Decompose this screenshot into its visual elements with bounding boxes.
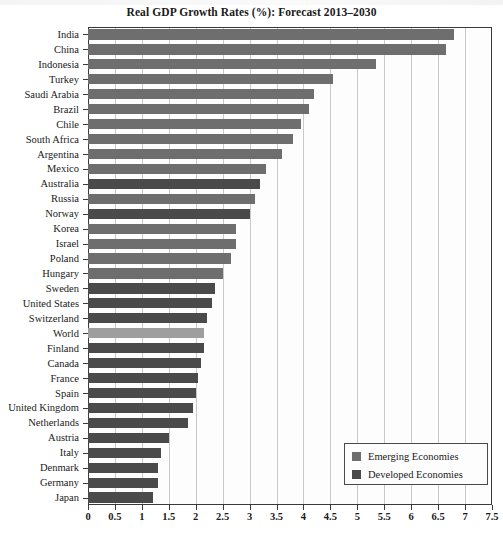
category-label: South Africa — [26, 132, 79, 147]
x-tick — [465, 505, 466, 510]
bar-row — [88, 102, 492, 117]
bar-india — [88, 29, 454, 39]
category-label: Switzerland — [29, 311, 79, 326]
bar-row — [88, 176, 492, 191]
category-label: Russia — [51, 191, 79, 206]
bar-row — [88, 341, 492, 356]
category-label: Mexico — [47, 161, 79, 176]
legend-label: Developed Economies — [368, 469, 463, 480]
bar-israel — [88, 239, 236, 249]
bar-row — [88, 326, 492, 341]
bar-germany — [88, 478, 158, 488]
category-label: Netherlands — [28, 415, 79, 430]
bar-row — [88, 57, 492, 72]
bar-argentina — [88, 149, 282, 159]
x-tick — [384, 505, 385, 510]
bar-china — [88, 44, 446, 54]
legend-label: Emerging Economies — [368, 451, 459, 462]
category-label: World — [53, 326, 79, 341]
bars-layer — [88, 27, 492, 505]
bar-brazil — [88, 104, 309, 114]
legend-swatch-icon — [352, 470, 361, 479]
value-axis: 00.511.522.533.544.555.566.577.5 — [88, 505, 492, 535]
x-tick — [411, 505, 412, 510]
bar-mexico — [88, 164, 266, 174]
x-tick-label: 7 — [462, 511, 467, 522]
x-tick-label: 1 — [139, 511, 144, 522]
bar-finland — [88, 343, 204, 353]
category-label: Brazil — [53, 102, 79, 117]
bar-norway — [88, 209, 250, 219]
bar-world — [88, 328, 204, 338]
bar-chile — [88, 119, 301, 129]
category-label: Turkey — [49, 72, 79, 87]
legend-item: Emerging Economies — [352, 448, 459, 464]
bar-australia — [88, 179, 260, 189]
bar-row — [88, 42, 492, 57]
x-tick — [492, 505, 493, 510]
category-label: China — [54, 42, 79, 57]
category-label: Canada — [48, 356, 80, 371]
bar-row — [88, 206, 492, 221]
bar-poland — [88, 253, 231, 263]
chart-container: Real GDP Growth Rates (%): Forecast 2013… — [0, 0, 503, 552]
category-label: Japan — [55, 490, 79, 505]
x-tick-label: 3 — [247, 511, 252, 522]
x-tick-label: 4.5 — [324, 511, 337, 522]
category-label: Argentina — [37, 147, 79, 162]
x-tick-label: 5 — [355, 511, 360, 522]
bar-row — [88, 161, 492, 176]
bar-saudi-arabia — [88, 89, 314, 99]
x-tick-label: 1.5 — [162, 511, 175, 522]
category-label: Norway — [45, 206, 79, 221]
x-tick — [169, 505, 170, 510]
category-label: Germany — [40, 475, 79, 490]
bar-row — [88, 490, 492, 505]
x-tick-label: 5.5 — [378, 511, 391, 522]
x-tick — [277, 505, 278, 510]
x-tick — [250, 505, 251, 510]
bar-korea — [88, 224, 236, 234]
category-axis: IndiaChinaIndonesiaTurkeySaudi ArabiaBra… — [0, 27, 88, 505]
bar-netherlands — [88, 418, 188, 428]
x-tick-label: 0.5 — [108, 511, 121, 522]
category-label: Sweden — [46, 281, 79, 296]
x-tick-label: 7.5 — [485, 511, 498, 522]
bar-row — [88, 27, 492, 42]
x-tick — [142, 505, 143, 510]
bar-row — [88, 356, 492, 371]
category-label: India — [57, 27, 79, 42]
bar-row — [88, 371, 492, 386]
x-tick-label: 0 — [85, 511, 90, 522]
x-tick — [223, 505, 224, 510]
category-label: Israel — [56, 236, 79, 251]
x-tick-label: 3.5 — [270, 511, 283, 522]
bar-row — [88, 87, 492, 102]
legend: Emerging EconomiesDeveloped Economies — [344, 443, 488, 485]
bar-row — [88, 415, 492, 430]
bar-row — [88, 236, 492, 251]
category-label: Indonesia — [38, 57, 79, 72]
bar-row — [88, 386, 492, 401]
x-tick-label: 6 — [409, 511, 414, 522]
bar-spain — [88, 388, 196, 398]
category-label: Chile — [56, 117, 79, 132]
category-label: United States — [23, 296, 79, 311]
category-label: Korea — [53, 221, 79, 236]
category-label: Saudi Arabia — [24, 87, 79, 102]
category-label: Poland — [50, 251, 79, 266]
category-label: Finland — [47, 341, 79, 356]
bar-denmark — [88, 463, 158, 473]
bar-row — [88, 132, 492, 147]
category-label: Austria — [48, 430, 79, 445]
bar-italy — [88, 448, 161, 458]
bar-row — [88, 117, 492, 132]
bar-hungary — [88, 268, 223, 278]
x-tick-label: 4 — [301, 511, 306, 522]
legend-item: Developed Economies — [352, 466, 463, 482]
x-tick — [438, 505, 439, 510]
x-tick — [303, 505, 304, 510]
bar-france — [88, 373, 198, 383]
bar-row — [88, 147, 492, 162]
x-tick — [357, 505, 358, 510]
